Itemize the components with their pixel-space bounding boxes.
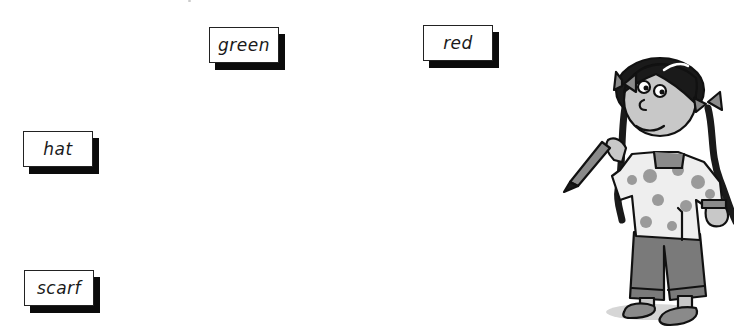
card-face: scarf xyxy=(24,270,94,306)
word-label: scarf xyxy=(37,278,81,298)
word-label: hat xyxy=(43,139,72,159)
word-card-red[interactable]: red xyxy=(423,25,493,61)
card-face: red xyxy=(423,25,493,61)
word-card-scarf[interactable]: scarf xyxy=(24,270,94,306)
word-card-hat[interactable]: hat xyxy=(23,131,93,167)
word-card-green[interactable]: green xyxy=(209,27,279,63)
card-face: hat xyxy=(23,131,93,167)
girl-illustration xyxy=(560,50,734,329)
card-face: green xyxy=(209,27,279,63)
print-speck xyxy=(188,0,191,2)
word-label: green xyxy=(218,35,270,55)
word-label: red xyxy=(443,33,473,53)
